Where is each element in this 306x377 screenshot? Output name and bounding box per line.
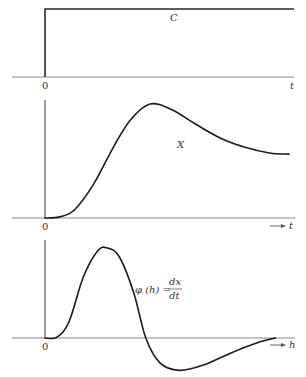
origin-label: 0 — [42, 80, 48, 91]
axis-label-t: t — [290, 80, 295, 91]
diagram-canvas: C 0 t X 0 t φ (h) = dx dt 0 h — [0, 0, 306, 377]
curve-label-phi: φ (h) = dx dt — [135, 276, 182, 301]
axis-arrow — [270, 224, 286, 228]
curve-label-x: X — [176, 139, 185, 150]
origin-label: 0 — [42, 341, 48, 352]
phi-label-denominator: dt — [169, 290, 180, 301]
curve-label-c: C — [170, 12, 178, 23]
panel-derivative-phi: φ (h) = dx dt 0 h — [12, 240, 295, 370]
panel-input-step: C 0 t — [12, 9, 295, 91]
origin-label: 0 — [42, 221, 48, 232]
derivative-curve-phi — [45, 247, 275, 370]
phi-label-main: φ (h) = — [135, 284, 171, 295]
axis-label-h: h — [289, 339, 295, 350]
response-curve-x — [45, 104, 289, 218]
phi-label-numerator: dx — [169, 276, 181, 287]
panel-response-x: X 0 t — [12, 100, 295, 232]
axis-arrow — [270, 343, 286, 347]
axis-label-t: t — [289, 220, 294, 231]
